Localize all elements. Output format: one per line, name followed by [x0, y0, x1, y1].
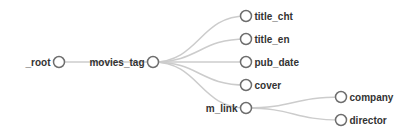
node-circle-icon[interactable] [54, 57, 65, 68]
tree-node-director[interactable]: director [336, 115, 387, 126]
tree-node-company[interactable]: company [336, 92, 394, 103]
node-label: company [350, 92, 394, 103]
link-m_link-to-company [246, 97, 341, 108]
node-circle-icon[interactable] [241, 11, 252, 22]
tree-node-root[interactable]: _root [25, 57, 65, 68]
node-label: pub_date [255, 57, 300, 68]
tree-node-title-cht[interactable]: title_cht [241, 11, 294, 22]
node-circle-icon[interactable] [241, 103, 252, 114]
node-label: cover [255, 80, 282, 91]
node-circle-icon[interactable] [336, 115, 347, 126]
tree-diagram: _rootmovies_tagtitle_chttitle_enpub_date… [0, 0, 416, 132]
tree-links [59, 16, 341, 120]
tree-node-pub-date[interactable]: pub_date [241, 57, 300, 68]
node-label: title_en [255, 34, 290, 45]
tree-node-movies-tag[interactable]: movies_tag [89, 57, 158, 68]
tree-node-cover[interactable]: cover [241, 80, 282, 91]
node-label: director [350, 115, 387, 126]
tree-nodes: _rootmovies_tagtitle_chttitle_enpub_date… [25, 11, 394, 126]
link-movies_tag-to-m_link [153, 62, 246, 108]
node-circle-icon[interactable] [241, 34, 252, 45]
node-label: movies_tag [89, 57, 144, 68]
node-circle-icon[interactable] [241, 57, 252, 68]
link-movies_tag-to-cover [153, 62, 246, 85]
tree-node-m-link[interactable]: m_link [206, 103, 252, 114]
node-label: _root [25, 57, 52, 68]
node-label: m_link [206, 103, 238, 114]
node-circle-icon[interactable] [148, 57, 159, 68]
tree-node-title-en[interactable]: title_en [241, 34, 290, 45]
link-movies_tag-to-title_en [153, 39, 246, 62]
node-circle-icon[interactable] [336, 92, 347, 103]
link-movies_tag-to-title_cht [153, 16, 246, 62]
node-label: title_cht [255, 11, 294, 22]
link-m_link-to-director [246, 108, 341, 120]
node-circle-icon[interactable] [241, 80, 252, 91]
